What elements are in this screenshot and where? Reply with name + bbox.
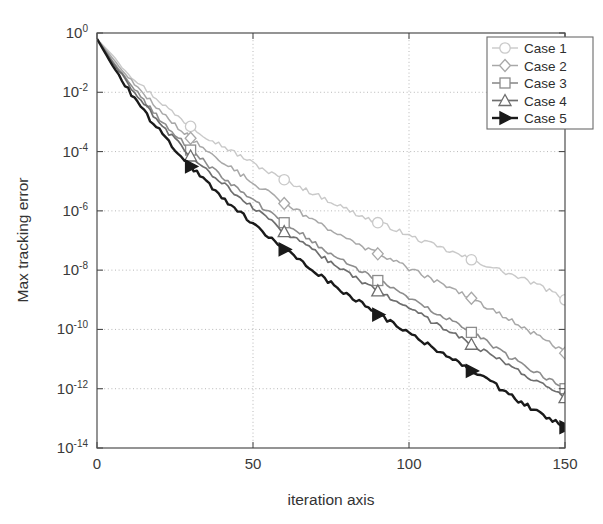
series-marker: [185, 121, 195, 131]
legend-label: Case 2: [524, 59, 567, 74]
legend-label: Case 1: [524, 41, 567, 56]
series-marker: [466, 255, 476, 265]
series-marker: [279, 175, 289, 185]
y-axis-title: Max tracking error: [14, 178, 31, 303]
x-axis-title: iteration axis: [287, 491, 374, 508]
figure-container: 10010-210-410-610-810-1010-1210-14 05010…: [0, 0, 603, 524]
legend-label: Case 5: [524, 111, 567, 126]
legend-marker: [500, 43, 510, 53]
series-marker: [373, 218, 383, 228]
legend[interactable]: Case 1Case 2Case 3Case 4Case 5: [487, 37, 593, 129]
series-marker: [466, 327, 476, 337]
convergence-chart: 10010-210-410-610-810-1010-1210-14 05010…: [0, 0, 603, 524]
legend-label: Case 3: [524, 76, 567, 91]
x-tick-label: 0: [93, 455, 101, 472]
x-tick-label: 100: [396, 455, 421, 472]
x-tick-label: 150: [552, 455, 577, 472]
x-tick-label: 50: [245, 455, 262, 472]
legend-label: Case 4: [524, 94, 567, 109]
legend-marker: [500, 78, 510, 88]
